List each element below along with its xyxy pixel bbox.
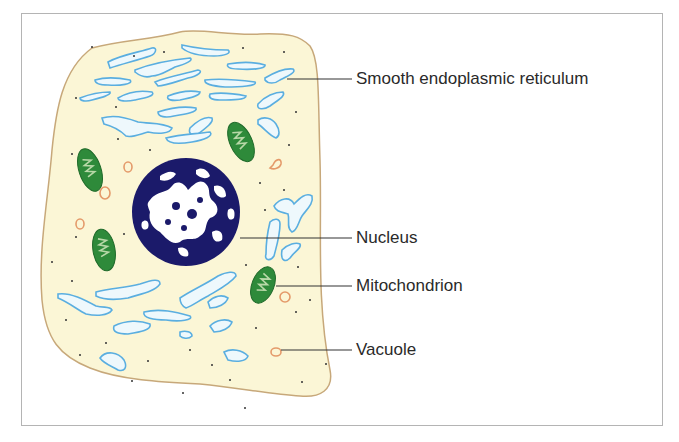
label-vacuole: Vacuole: [356, 340, 416, 360]
label-nucleus: Nucleus: [356, 228, 417, 248]
nucleus: [132, 158, 240, 266]
cell-diagram: [0, 0, 679, 442]
label-mitochondrion: Mitochondrion: [356, 276, 463, 296]
label-smooth-er: Smooth endoplasmic reticulum: [356, 69, 588, 89]
